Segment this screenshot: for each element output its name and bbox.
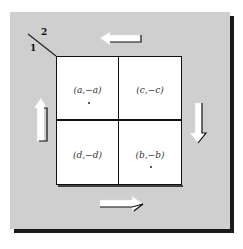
arrow-right-icon <box>0 0 243 249</box>
